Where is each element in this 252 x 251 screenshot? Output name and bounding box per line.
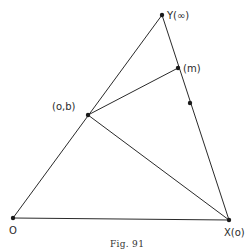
label-o: O (9, 225, 17, 236)
segment-o-x (13, 218, 229, 220)
point-d (188, 101, 192, 105)
point-x (227, 218, 231, 222)
label-y: Y(∞) (166, 10, 189, 21)
label-m: (m) (183, 63, 201, 74)
point-m (176, 66, 180, 70)
segment-b-x (88, 115, 229, 220)
point-y (160, 13, 164, 17)
projective-diagram: O X(o) Y(∞) (o,b) (m) Fig. 91 (0, 0, 252, 251)
label-x: X(o) (224, 227, 245, 238)
point-o (11, 216, 15, 220)
point-b (86, 113, 90, 117)
segment-y-x (162, 15, 229, 220)
figure-caption: Fig. 91 (110, 239, 144, 249)
segment-b-m (88, 68, 178, 115)
label-b: (o,b) (52, 101, 76, 112)
